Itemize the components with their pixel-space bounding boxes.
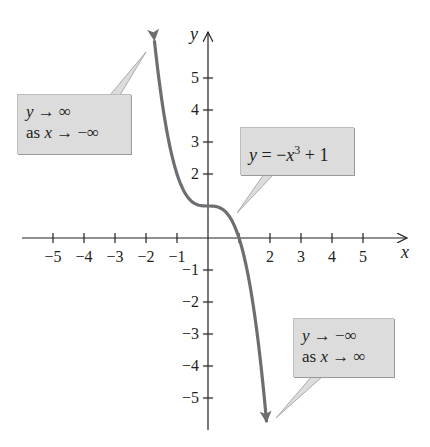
- x-tick-label: −3: [106, 248, 123, 265]
- callout-text: y: [249, 145, 257, 165]
- y-tick-label: 2: [191, 165, 199, 182]
- x-axis-label: x: [400, 242, 409, 262]
- y-tick-label: 5: [191, 69, 199, 86]
- callout-right-end-behavior: y → −∞ as x → ∞: [293, 318, 394, 377]
- callout-text: x: [320, 347, 328, 366]
- y-tick-label: −1: [182, 261, 199, 278]
- y-tick-label: −5: [182, 389, 199, 406]
- callout-tail-mid: [237, 174, 274, 213]
- callout-text: → ∞: [328, 347, 366, 366]
- y-tick-label: −3: [182, 325, 199, 342]
- x-tick-label: −2: [137, 248, 154, 265]
- plot-area: −5−4−3−2−12345−5−4−3−2−12345 x y: [0, 0, 430, 447]
- callout-left-end-behavior: y → ∞ as x → −∞: [17, 94, 131, 154]
- callout-text: + 1: [300, 145, 328, 165]
- y-tick-label: −4: [182, 357, 199, 374]
- y-tick-label: −2: [182, 293, 199, 310]
- x-tick-label: −5: [44, 248, 61, 265]
- callout-text: as: [26, 123, 44, 142]
- callout-function-label: y = −x3 + 1: [240, 127, 354, 175]
- callout-text: = −: [257, 145, 286, 165]
- callout-text: → −∞: [310, 326, 357, 345]
- callout-text: → −∞: [52, 123, 99, 142]
- callout-text: y: [26, 102, 34, 121]
- x-tick-label: −4: [75, 248, 92, 265]
- callout-tail-left: [110, 52, 146, 95]
- callout-text: → ∞: [34, 102, 72, 121]
- y-tick-label: 4: [191, 101, 199, 118]
- x-tick-label: 2: [266, 248, 274, 265]
- callout-text: y: [302, 326, 310, 345]
- x-tick-label: 4: [328, 248, 336, 265]
- y-tick-label: 3: [191, 133, 199, 150]
- callout-text: x: [44, 123, 52, 142]
- x-tick-label: 3: [297, 248, 305, 265]
- callout-tail-right: [276, 376, 323, 418]
- callout-text: as: [302, 347, 320, 366]
- y-axis-label: y: [188, 24, 198, 44]
- function-curve: [154, 40, 266, 422]
- x-tick-label: 5: [359, 248, 367, 265]
